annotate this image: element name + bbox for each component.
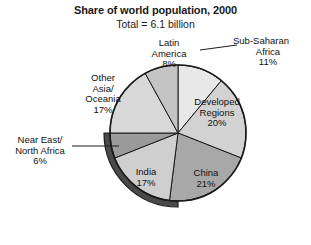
pie-label-india-line1: India xyxy=(124,167,168,178)
pie-label-near-east-north-africa: Near East/ North Africa 6% xyxy=(6,135,74,167)
pie-label-other-asia-oceania: Other Asia/ Oceania 17% xyxy=(76,73,130,115)
pie-label-india-percent: 17% xyxy=(124,178,168,189)
pie-label-sub-saharan-africa: Sub-Saharan Africa 11% xyxy=(233,36,309,68)
pie-label-china: China 21% xyxy=(182,168,230,189)
pie-chart-figure: Share of world population, 2000 Total = … xyxy=(0,0,311,245)
pie-label-sub-saharan-africa-line1: Sub-Saharan xyxy=(233,36,309,47)
pie-label-developed-regions-line1: Developed xyxy=(186,97,248,108)
pie-label-latin-america-line1: Latin xyxy=(142,38,196,49)
pie-label-latin-america-percent: 8% xyxy=(142,59,196,70)
pie-label-other-asia-oceania-percent: 17% xyxy=(76,105,130,116)
pie-label-latin-america: Latin America 8% xyxy=(142,38,196,70)
pie-label-developed-regions-percent: 20% xyxy=(186,118,248,129)
pie-label-developed-regions: Developed Regions 20% xyxy=(186,97,248,129)
pie-label-sub-saharan-africa-percent: 11% xyxy=(233,57,303,68)
pie-label-near-east-north-africa-line1: Near East/ xyxy=(6,135,74,146)
pie-label-china-percent: 21% xyxy=(182,179,230,190)
pie-label-near-east-north-africa-percent: 6% xyxy=(6,156,74,167)
leader-line-sub-saharan-africa xyxy=(200,45,237,50)
pie-label-china-line1: China xyxy=(182,168,230,179)
pie-label-other-asia-oceania-line3: Oceania xyxy=(76,94,130,105)
pie-label-india: India 17% xyxy=(124,167,168,188)
pie-label-other-asia-oceania-line1: Other xyxy=(76,73,130,84)
